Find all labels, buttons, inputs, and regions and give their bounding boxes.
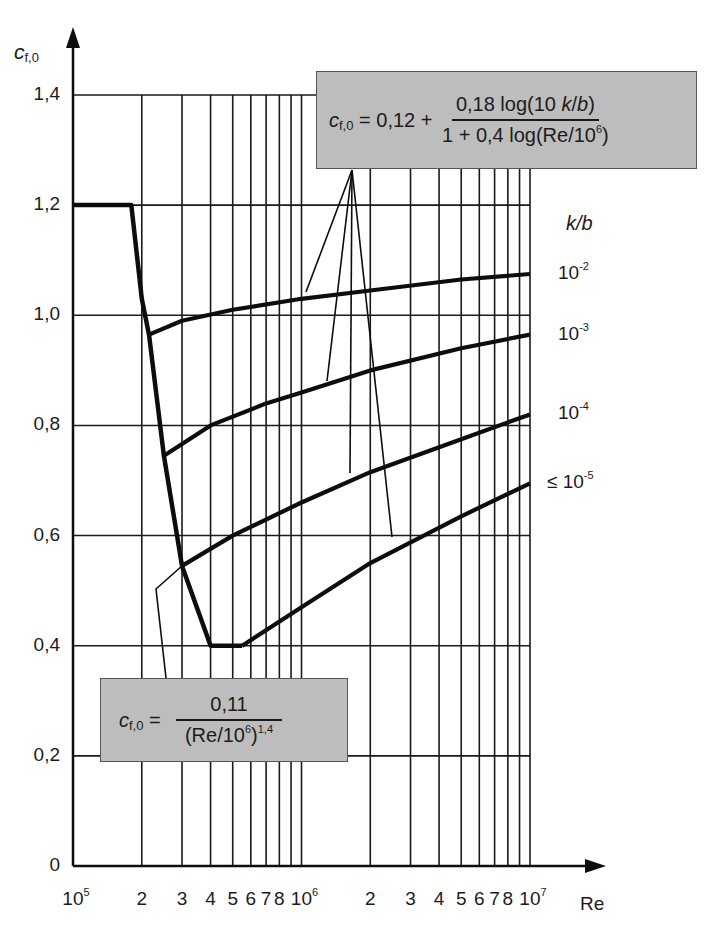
x-tick-label: 3 [177,888,188,910]
y-title-sub: f,0 [25,50,39,65]
legend-item: ≤ 10-5 [547,471,594,493]
y-title-main: c [14,40,25,63]
x-tick-label: 4 [205,888,216,910]
y-tick-label: 1,2 [10,193,60,215]
formula-box-rough: cf,0 = 0,12 + 0,18 log(10 k/b) 1 + 0,4 l… [316,71,697,169]
x-axis-arrow-icon [585,859,606,873]
x-tick-label: 7 [489,888,500,910]
y-tick-label: 1,0 [10,303,60,325]
y-axis-title: cf,0 [14,40,39,64]
formula-box-smooth: cf,0 = 0,11 (Re/106)1,4 [100,678,348,762]
x-tick-label: 5 [456,888,467,910]
x-axis-title: Re [580,893,604,915]
leader-line-rough [350,170,352,473]
y-axis-arrow-icon [66,27,80,48]
x-tick-label: 3 [405,888,416,910]
x-tick-label: 2 [136,888,147,910]
curve-kb-4 [242,483,530,645]
x-tick-label: 6 [246,888,257,910]
formula-rough-denominator: 1 + 0,4 log(Re/106) [438,121,613,147]
legend-title: k/b [566,212,593,235]
x-tick-label: 5 [227,888,238,910]
formula-rough-numerator: 0,18 log(10 k/b) [452,93,599,121]
leader-line-rough [352,170,392,537]
formula-smooth-fraction: 0,11 (Re/106)1,4 [176,693,281,747]
formula-smooth-numerator: 0,11 [176,693,281,721]
x-tick-label: 6 [474,888,485,910]
y-tick-label: 0 [10,854,60,876]
x-tick-label: 107 [519,888,546,910]
formula-rough-lhs: cf,0 = 0,12 + [329,109,438,132]
curve-kb-2 [164,335,530,456]
formula-smooth-denominator: (Re/106)1,4 [181,721,277,747]
formula-rough-fraction: 0,18 log(10 k/b) 1 + 0,4 log(Re/106) [438,93,613,147]
formula-smooth-lhs: cf,0 = [119,709,166,732]
y-tick-label: 1,4 [10,83,60,105]
x-tick-label: 2 [365,888,376,910]
legend-item: 10-3 [558,323,589,345]
leader-line-smooth [156,565,183,678]
x-tick-label: 8 [274,888,285,910]
formula-leader-lines [156,170,392,678]
curve-kb-1 [149,274,530,335]
y-tick-label: 0,4 [10,634,60,656]
legend-item: 10-2 [558,262,589,284]
y-tick-label: 0,8 [10,413,60,435]
y-tick-label: 0,2 [10,744,60,766]
x-tick-label: 4 [434,888,445,910]
x-tick-label: 106 [291,888,318,910]
x-tick-label: 8 [503,888,514,910]
legend-item: 10-4 [558,402,589,424]
x-tick-label: 105 [62,888,89,910]
x-tick-label: 7 [261,888,272,910]
curve-kb-3 [182,414,530,566]
y-tick-label: 0,6 [10,524,60,546]
